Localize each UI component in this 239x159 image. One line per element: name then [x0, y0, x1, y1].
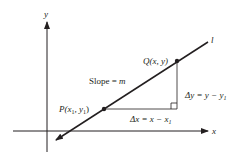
x-axis-label: x: [211, 126, 216, 136]
line-label: l: [211, 35, 214, 45]
point-p: [102, 107, 106, 111]
point-q: [175, 59, 179, 63]
delta-y-label: Δy = y − y1: [184, 90, 226, 101]
point-q-label: Q(x, y): [143, 56, 168, 66]
point-p-label: P(x1, y1): [58, 104, 89, 115]
delta-x-label: Δx = x − x1: [129, 114, 171, 125]
y-axis-label: y: [43, 9, 48, 19]
right-angle-mark: [171, 103, 177, 109]
slope-diagram: y x l Q(x, y) P(x1, y1) Slope = m Δy = y…: [0, 0, 239, 159]
slope-label: Slope = m: [89, 76, 126, 86]
